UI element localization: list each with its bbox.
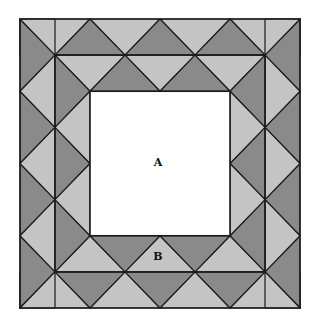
label-b: B bbox=[153, 250, 162, 263]
label-a: A bbox=[154, 156, 163, 169]
